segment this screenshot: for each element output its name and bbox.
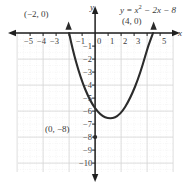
x-tick-label-neg4: −4 [37,37,46,46]
parabola-graph-figure: y = x2 − 2x − 8 (−2, 0) (4, 0) (0, −8) x… [0,0,189,185]
y-tick-label-neg1: −1 [83,42,92,51]
equation-label: y = x2 − 2x − 8 [120,6,176,15]
y-tick-label-neg8: −8 [83,133,92,142]
label-x-intercept-right: (4, 0) [122,17,142,26]
x-tick-label-neg3: −3 [50,37,59,46]
y-tick-label-neg4: −4 [83,81,92,90]
y-axis-name: y [90,3,94,12]
y-tick-label-neg5: −5 [83,94,92,103]
y-tick-label-neg6: −6 [83,107,92,116]
x-axis [8,30,180,36]
equation-suffix: − 2x − 8 [142,5,176,15]
y-tick-label-neg7: −7 [83,120,92,129]
graph-canvas [0,0,189,185]
curve-end-arrowheads [65,22,156,30]
x-tick-label-5: 5 [162,37,166,46]
label-y-intercept: (0, −8) [45,125,70,134]
point-y-intercept [93,135,97,139]
x-tick-label-1: 1 [110,37,114,46]
x-tick-label-neg5: −5 [24,37,33,46]
x-axis-name: x [178,29,182,38]
y-tick-label-neg3: −3 [83,68,92,77]
label-x-intercept-left: (−2, 0) [24,10,49,19]
x-tick-label-0: 0 [97,37,101,46]
x-tick-label-2: 2 [123,37,127,46]
marked-points [93,135,97,139]
y-tick-label-neg10: −10 [79,159,92,168]
y-tick-label-neg9: −9 [83,146,92,155]
equation-text: y = x [120,5,139,15]
x-tick-label-3: 3 [136,37,140,46]
y-tick-label-neg2: −2 [83,55,92,64]
